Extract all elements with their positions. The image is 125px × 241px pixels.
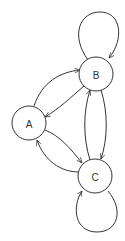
node-C: C bbox=[78, 159, 112, 193]
node-A: A bbox=[12, 106, 46, 140]
edge-C-A bbox=[37, 140, 79, 172]
node-A-label: A bbox=[26, 119, 33, 130]
edge-B-C bbox=[101, 90, 106, 159]
edge-B-B bbox=[79, 12, 119, 60]
node-B-label: B bbox=[93, 70, 100, 81]
state-diagram: A B C bbox=[0, 0, 125, 241]
edge-A-C bbox=[45, 130, 82, 163]
node-B: B bbox=[79, 57, 113, 91]
edge-A-B bbox=[34, 70, 80, 106]
edge-C-B bbox=[85, 90, 90, 160]
edge-B-A bbox=[45, 86, 84, 117]
edge-C-C bbox=[76, 191, 117, 232]
node-C-label: C bbox=[91, 172, 98, 183]
